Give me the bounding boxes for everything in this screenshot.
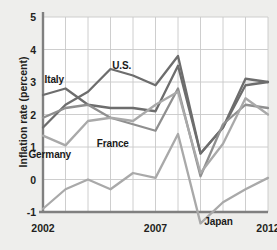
series-label-japan: Japan [204, 216, 232, 227]
inflation-rate-line-chart: Inflation rate (percent) 543210-1 200220… [0, 0, 277, 250]
y-tick-label: 4 [14, 45, 36, 55]
y-tick-label: 3 [14, 77, 36, 87]
y-tick-label: 2 [14, 110, 36, 120]
series-label-us: U.S. [112, 60, 131, 71]
y-tick-label: 0 [14, 175, 36, 185]
y-tick-label: -1 [14, 207, 36, 217]
x-tick-label: 2002 [31, 222, 54, 234]
series-label-italy: Italy [44, 74, 64, 85]
x-tick-label: 2012 [256, 222, 277, 234]
x-tick-label: 2007 [144, 222, 167, 234]
series-label-germany: Germany [28, 149, 71, 160]
y-tick-label: 5 [14, 12, 36, 22]
plot-area [0, 0, 277, 250]
series-label-france: France [97, 138, 129, 149]
